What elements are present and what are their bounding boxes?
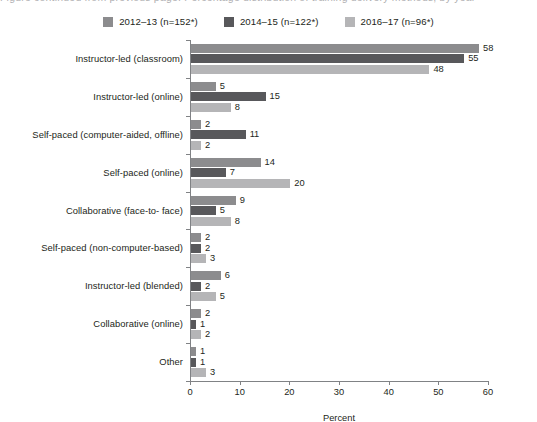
plot-area: Percent 0102030405060Instructor-led (cla… (190, 40, 488, 381)
bar-value-label: 14 (265, 158, 275, 167)
x-axis-tick (190, 381, 191, 385)
x-axis-tick (339, 381, 340, 385)
bar-1[interactable] (191, 120, 201, 129)
bar-2[interactable] (191, 206, 216, 215)
bar-1[interactable] (191, 309, 201, 318)
bar-2[interactable] (191, 358, 196, 367)
bar-2[interactable] (191, 320, 196, 329)
bar-2[interactable] (191, 130, 246, 139)
legend-label: 2014–15 (n=122*) (240, 16, 319, 27)
y-axis-tick (186, 381, 190, 382)
legend-item-2012-13[interactable]: 2012–13 (n=152*) (103, 16, 198, 27)
bar-3[interactable] (191, 368, 206, 377)
x-axis-title: Percent (190, 413, 488, 422)
chart-legend: 2012–13 (n=152*)2014–15 (n=122*)2016–17 … (0, 16, 537, 27)
bar-2[interactable] (191, 168, 226, 177)
bar-1[interactable] (191, 44, 479, 53)
bar-value-label: 2 (205, 330, 210, 339)
bar-group: Self-paced (computer-aided, offline)2112 (190, 120, 488, 150)
bar-value-label: 58 (483, 44, 493, 53)
x-axis-tick (289, 381, 290, 385)
x-axis-tick-label: 40 (383, 387, 393, 397)
bar-value-label: 48 (433, 65, 443, 74)
legend-swatch-icon (103, 17, 113, 27)
x-axis-tick (389, 381, 390, 385)
category-label: Self-paced (non-computer-based) (41, 243, 183, 252)
bar-group: Collaborative (online)212 (190, 309, 488, 339)
bar-value-label: 2 (205, 244, 210, 253)
y-axis-tick (186, 40, 190, 41)
category-label: Instructor-led (online) (93, 92, 183, 101)
legend-swatch-icon (224, 17, 234, 27)
bar-value-label: 11 (250, 130, 260, 139)
y-axis-tick (186, 116, 190, 117)
bar-value-label: 8 (235, 217, 240, 226)
bar-1[interactable] (191, 347, 196, 356)
y-axis-tick (186, 229, 190, 230)
y-axis-tick (186, 267, 190, 268)
bar-group: Other113 (190, 347, 488, 377)
legend-item-2016-17[interactable]: 2016–17 (n=96*) (345, 16, 434, 27)
bar-value-label: 2 (205, 233, 210, 242)
cut-off-title: Figure continued from previous page: Per… (0, 0, 537, 5)
bar-3[interactable] (191, 217, 231, 226)
bar-value-label: 1 (200, 358, 205, 367)
bar-3[interactable] (191, 141, 201, 150)
x-axis-tick (488, 381, 489, 385)
bar-group: Self-paced (non-computer-based)223 (190, 233, 488, 263)
bar-value-label: 20 (294, 179, 304, 188)
bar-1[interactable] (191, 271, 221, 280)
x-axis-tick-label: 0 (187, 387, 192, 397)
bar-group: Instructor-led (classroom)585548 (190, 44, 488, 74)
bar-1[interactable] (191, 196, 236, 205)
bar-3[interactable] (191, 292, 216, 301)
bar-value-label: 5 (220, 292, 225, 301)
legend-label: 2012–13 (n=152*) (119, 16, 198, 27)
y-axis-tick (186, 78, 190, 79)
y-axis-tick (186, 343, 190, 344)
x-axis-tick-label: 10 (234, 387, 244, 397)
bar-2[interactable] (191, 244, 201, 253)
bar-value-label: 9 (240, 196, 245, 205)
bar-1[interactable] (191, 233, 201, 242)
legend-label: 2016–17 (n=96*) (361, 16, 434, 27)
category-label: Collaborative (face-to- face) (66, 206, 183, 215)
bar-value-label: 5 (220, 82, 225, 91)
bar-3[interactable] (191, 254, 206, 263)
bar-1[interactable] (191, 158, 261, 167)
bar-value-label: 2 (205, 120, 210, 129)
x-axis-tick-label: 20 (284, 387, 294, 397)
bar-3[interactable] (191, 179, 290, 188)
category-label: Instructor-led (blended) (85, 281, 183, 290)
bar-1[interactable] (191, 82, 216, 91)
bar-2[interactable] (191, 282, 201, 291)
bar-group: Instructor-led (blended)625 (190, 271, 488, 301)
y-axis-tick (186, 154, 190, 155)
x-axis-tick (240, 381, 241, 385)
bar-group: Self-paced (online)14720 (190, 158, 488, 188)
category-label: Collaborative (online) (93, 319, 183, 328)
category-label: Self-paced (computer-aided, offline) (32, 130, 183, 139)
x-axis-tick-label: 30 (334, 387, 344, 397)
bar-2[interactable] (191, 92, 266, 101)
bar-3[interactable] (191, 103, 231, 112)
category-label: Self-paced (online) (103, 168, 183, 177)
bar-value-label: 5 (220, 206, 225, 215)
legend-swatch-icon (345, 17, 355, 27)
bar-3[interactable] (191, 65, 429, 74)
bar-value-label: 3 (210, 368, 215, 377)
bar-group: Collaborative (face-to- face)958 (190, 196, 488, 226)
y-axis-tick (186, 305, 190, 306)
bar-value-label: 1 (200, 320, 205, 329)
bar-value-label: 6 (225, 271, 230, 280)
bar-value-label: 2 (205, 141, 210, 150)
x-axis-tick (438, 381, 439, 385)
bar-value-label: 8 (235, 103, 240, 112)
x-axis-tick-label: 50 (433, 387, 443, 397)
bar-2[interactable] (191, 54, 464, 63)
bar-value-label: 55 (468, 54, 478, 63)
category-label: Other (159, 357, 183, 366)
bar-3[interactable] (191, 330, 201, 339)
bar-value-label: 1 (200, 347, 205, 356)
legend-item-2014-15[interactable]: 2014–15 (n=122*) (224, 16, 319, 27)
